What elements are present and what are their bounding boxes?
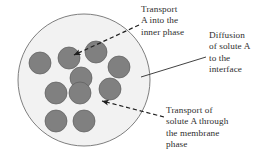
label-transport-through-membrane-phase: Transport of solute A through the membra…	[166, 105, 278, 151]
inner-phase-globule	[85, 41, 107, 63]
inner-phase-globule	[29, 52, 51, 74]
inner-phase-globule	[45, 82, 67, 104]
label-transport-into-inner-phase: Transport A into the inner phase	[141, 4, 211, 38]
leader-line-diffusion-interface	[141, 57, 206, 77]
inner-phase-globule	[99, 78, 121, 100]
inner-phase-globule	[45, 110, 67, 132]
inner-phase-globule	[69, 82, 91, 104]
inner-phase-globule	[73, 110, 95, 132]
figure-root: Transport A into the inner phase Diffusi…	[0, 0, 278, 160]
label-diffusion-to-interface: Diffusion of solute A to the interface	[209, 30, 277, 76]
inner-phase-globule	[58, 47, 80, 69]
inner-phase-globule	[108, 56, 130, 78]
